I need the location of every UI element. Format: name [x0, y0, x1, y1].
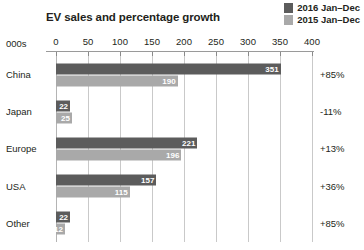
- bar-group: 2212: [56, 212, 312, 235]
- legend-item-2015: 2015 Jan–Dec: [284, 14, 360, 25]
- page-title: EV sales and percentage growth: [46, 11, 220, 23]
- bar-japan-2015[interactable]: 25: [56, 112, 72, 123]
- chart-row: USA157115+36%: [0, 168, 364, 205]
- category-label-other: Other: [6, 218, 52, 229]
- axis-units-label: 000s: [6, 38, 27, 49]
- bar-value-label: 157: [141, 175, 154, 186]
- bar-europe-2015[interactable]: 196: [56, 149, 181, 160]
- legend-label-2015: 2015 Jan–Dec: [297, 14, 360, 25]
- bar-slot: 22: [56, 100, 312, 111]
- x-axis-tick-label: 400: [304, 36, 320, 47]
- bar-slot: 12: [56, 224, 312, 235]
- bar-other-2015[interactable]: 12: [56, 224, 65, 235]
- chart-legend: 2016 Jan–Dec 2015 Jan–Dec: [284, 2, 360, 25]
- bar-value-label: 351: [265, 63, 278, 74]
- category-label-japan: Japan: [6, 106, 52, 117]
- x-axis-tick-label: 100: [112, 36, 128, 47]
- bar-europe-2016[interactable]: 221: [56, 137, 197, 148]
- chart-row: China351190+85%: [0, 56, 364, 93]
- axis-baseline: [46, 51, 314, 52]
- bar-group: 221196: [56, 137, 312, 160]
- bar-value-label: 196: [166, 149, 179, 160]
- bar-value-label: 12: [54, 224, 63, 235]
- bar-value-label: 221: [182, 137, 195, 148]
- x-axis-tick-label: 200: [176, 36, 192, 47]
- growth-value-europe: +13%: [320, 143, 364, 154]
- bar-slot: 22: [56, 212, 312, 223]
- legend-swatch-icon-2016: [284, 3, 293, 13]
- growth-value-usa: +36%: [320, 181, 364, 192]
- x-axis-tick-label: 300: [240, 36, 256, 47]
- bar-value-label: 190: [162, 75, 175, 86]
- bar-slot: 351: [56, 63, 312, 74]
- bar-group: 351190: [56, 63, 312, 86]
- category-label-europe: Europe: [6, 143, 52, 154]
- legend-item-2016: 2016 Jan–Dec: [284, 2, 360, 13]
- bar-slot: 221: [56, 137, 312, 148]
- bar-usa-2015[interactable]: 115: [56, 187, 130, 198]
- growth-value-china: +85%: [320, 69, 364, 80]
- bar-slot: 115: [56, 187, 312, 198]
- x-axis-tick-label: 350: [272, 36, 288, 47]
- x-axis-tick-label: 0: [53, 36, 58, 47]
- bar-value-label: 25: [61, 112, 70, 123]
- growth-value-other: +85%: [320, 218, 364, 229]
- growth-value-japan: -11%: [320, 106, 364, 117]
- bar-china-2016[interactable]: 351: [56, 63, 281, 74]
- category-label-china: China: [6, 69, 52, 80]
- bar-usa-2016[interactable]: 157: [56, 175, 156, 186]
- bar-slot: 25: [56, 112, 312, 123]
- x-axis: 050100150200250300350400: [56, 36, 312, 52]
- bar-value-label: 22: [59, 100, 68, 111]
- bar-group: 157115: [56, 175, 312, 198]
- bar-china-2015[interactable]: 190: [56, 75, 178, 86]
- chart-row: Japan2225-11%: [0, 93, 364, 130]
- bar-japan-2016[interactable]: 22: [56, 100, 70, 111]
- legend-swatch-icon-2015: [284, 15, 293, 25]
- bar-slot: 190: [56, 75, 312, 86]
- chart-rows: China351190+85%Japan2225-11%Europe221196…: [0, 56, 364, 242]
- bar-value-label: 22: [59, 212, 68, 223]
- x-axis-tick-label: 250: [208, 36, 224, 47]
- bar-value-label: 115: [115, 187, 128, 198]
- legend-label-2016: 2016 Jan–Dec: [297, 2, 360, 13]
- category-label-usa: USA: [6, 181, 52, 192]
- bar-group: 2225: [56, 100, 312, 123]
- x-axis-tick-label: 150: [144, 36, 160, 47]
- chart-row: Europe221196+13%: [0, 130, 364, 167]
- bar-slot: 196: [56, 149, 312, 160]
- bar-other-2016[interactable]: 22: [56, 212, 70, 223]
- chart-row: Other2212+85%: [0, 205, 364, 242]
- x-axis-tick-label: 50: [83, 36, 94, 47]
- bar-slot: 157: [56, 175, 312, 186]
